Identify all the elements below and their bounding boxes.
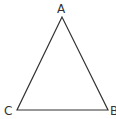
triangle-diagram: A C B [0, 0, 116, 119]
vertex-label-c: C [4, 104, 12, 118]
vertex-label-a: A [57, 2, 66, 16]
triangle-abc [17, 17, 108, 110]
vertex-label-b: B [110, 104, 116, 118]
